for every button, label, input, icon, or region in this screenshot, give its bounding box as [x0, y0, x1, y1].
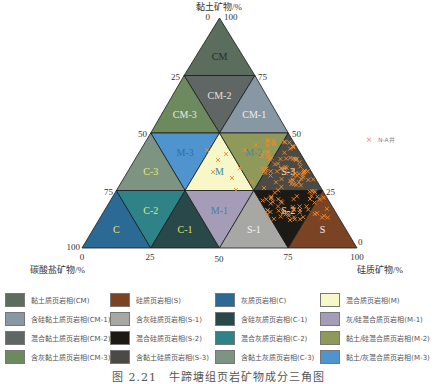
region-label-cm: CM: [212, 51, 228, 62]
apex-axis-label: 黏土矿物/%: [196, 1, 243, 12]
legend-swatch: [110, 293, 130, 307]
legend-label: 含黏土硅质页岩相(S-3): [136, 352, 209, 362]
region-label-s-1: S-1: [247, 224, 261, 235]
legend-label: 混合硅质页岩相(S-2): [136, 333, 202, 343]
legend-label: 含黏土灰质页岩相(C-3): [241, 352, 314, 362]
legend-item: 混合质页岩相(M): [320, 292, 400, 308]
legend-item: 含灰黏土质页岩相(CM-3): [5, 349, 110, 365]
base-tick-0: 0: [80, 252, 85, 262]
legend-swatch: [320, 350, 340, 364]
legend-item: 混合黏土质页岩相(CM-2): [5, 330, 110, 346]
legend-item: 灰质页岩相(C): [215, 292, 286, 308]
legend-swatch: [215, 312, 235, 326]
legend-label: 混合灰质页岩相(C-2): [241, 333, 307, 343]
legend-swatch: [5, 331, 25, 345]
legend-swatch: [5, 293, 25, 307]
legend-label: 黏土/硅混合质页岩相(M-2): [346, 333, 430, 343]
region-label-s: S: [320, 224, 326, 235]
legend-swatch: [110, 331, 130, 345]
legend-swatch: [320, 331, 340, 345]
base-tick-50: 50: [215, 254, 225, 264]
legend-swatch: [320, 293, 340, 307]
region-label-m: M: [215, 166, 224, 177]
legend-label: 混合质页岩相(M): [346, 295, 400, 305]
legend-swatch: [5, 350, 25, 364]
legend-item: 含硅黏土质页岩相(CM-1): [5, 311, 110, 327]
right-tick-75: 75: [258, 72, 268, 82]
right-tick-0: 0: [358, 237, 363, 247]
right-tick-50: 50: [292, 129, 302, 139]
legend-item: 含黏土硅质页岩相(S-3): [110, 349, 209, 365]
legend-label: 灰/硅混合质页岩相(M-1): [346, 314, 423, 324]
legend-item: 黏土质页岩相(CM): [5, 292, 89, 308]
legend-item: 灰/硅混合质页岩相(M-1): [320, 311, 423, 327]
legend-label: 黏土质页岩相(CM): [31, 295, 89, 305]
series-legend: × N-A井: [366, 135, 395, 144]
legend-item: 黏土/灰混合质页岩相(M-3): [320, 349, 430, 365]
region-label-c-2: C-2: [143, 205, 158, 216]
legend-swatch: [110, 312, 130, 326]
series-legend-label: N-A井: [378, 136, 395, 144]
region-label-c-1: C-1: [178, 224, 193, 235]
base-tick-25: 25: [146, 252, 156, 262]
legend-item: 含黏土灰质页岩相(C-3): [215, 349, 314, 365]
legend-swatch: [215, 293, 235, 307]
legend-item: 含灰硅质页岩相(S-1): [110, 311, 202, 327]
legend-item: 硅质页岩相(S): [110, 292, 181, 308]
region-label-m-3: M-3: [176, 147, 193, 158]
legend-label: 含硅黏土质页岩相(CM-1): [31, 314, 110, 324]
legend-label: 含灰黏土质页岩相(CM-3): [31, 352, 110, 362]
legend-label: 灰质页岩相(C): [241, 295, 286, 305]
legend-swatch: [215, 331, 235, 345]
region-label-c: C: [113, 224, 120, 235]
region-label-cm-3: CM-3: [173, 109, 197, 120]
base-tick-75: 75: [284, 252, 294, 262]
region-label-c-3: C-3: [143, 166, 158, 177]
base-tick-100: 100: [350, 252, 364, 262]
right-tick-25: 25: [326, 187, 336, 197]
top-tick-left: 0: [206, 12, 211, 22]
figure-caption: 图 2.21 牛蹄塘组页岩矿物成分三角图: [0, 368, 437, 384]
cross-marker-icon: ×: [366, 135, 373, 144]
legend-label: 黏土/灰混合质页岩相(M-3): [346, 352, 430, 362]
region-label-cm-2: CM-2: [208, 90, 232, 101]
left-tick-25: 25: [171, 72, 181, 82]
left-tick-50: 50: [138, 129, 148, 139]
left-tick-100: 100: [67, 242, 81, 252]
region-label-m-2: M-2: [245, 147, 262, 158]
right-axis-label: 硅质矿物/%: [357, 264, 404, 275]
region-label-cm-1: CM-1: [242, 109, 266, 120]
legend-label: 硅质页岩相(S): [136, 295, 181, 305]
region-cm: [184, 18, 255, 76]
legend-swatch: [110, 350, 130, 364]
legend-item: 混合灰质页岩相(C-2): [215, 330, 307, 346]
region-label-m-1: M-1: [211, 205, 228, 216]
legend-swatch: [215, 350, 235, 364]
left-tick-75: 75: [104, 187, 114, 197]
legend-label: 含灰硅质页岩相(S-1): [136, 314, 202, 324]
left-axis-label: 碳酸盐矿物/%: [30, 264, 86, 275]
legend-label: 含硅灰质页岩相(C-1): [241, 314, 307, 324]
legend-swatch: [320, 312, 340, 326]
legend-label: 混合黏土质页岩相(CM-2): [31, 333, 110, 343]
legend-item: 黏土/硅混合质页岩相(M-2): [320, 330, 430, 346]
legend-item: 含硅灰质页岩相(C-1): [215, 311, 307, 327]
legend-item: 混合硅质页岩相(S-2): [110, 330, 202, 346]
ternary-diagram: CMCM-2CM-3CM-1M-3MM-2C-3S-3CC-2C-1M-1S-1…: [0, 0, 437, 290]
top-tick-right: 100: [224, 12, 238, 22]
legend-swatch: [5, 312, 25, 326]
